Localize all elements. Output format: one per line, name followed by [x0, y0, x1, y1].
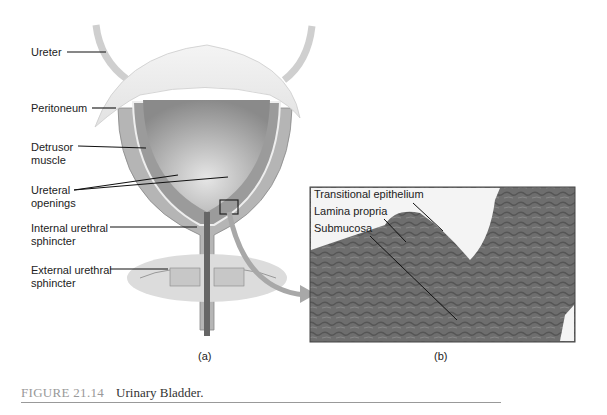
ureter-right: [284, 26, 312, 80]
label-internal-urethral-sphincter: Internal urethral sphincter: [31, 222, 108, 248]
label-lamina-propria: Lamina propria: [314, 205, 387, 217]
label-external-urethral-sphincter: External urethral sphincter: [31, 264, 112, 290]
panel-a-sublabel: (a): [198, 350, 211, 362]
bladder-diagram: [0, 0, 607, 415]
figure-caption: FIGURE 21.14Urinary Bladder.: [21, 385, 203, 401]
label-ureter: Ureter: [31, 46, 62, 59]
label-ureteral-openings: Ureteral openings: [31, 184, 76, 210]
figure-number: FIGURE 21.14: [21, 385, 104, 400]
panel-b-sublabel: (b): [434, 350, 447, 362]
caption-rule: [21, 402, 501, 403]
label-submucosa: Submucosa: [314, 222, 372, 234]
label-transitional-epithelium: Transitional epithelium: [314, 188, 424, 200]
figure-title: Urinary Bladder.: [116, 385, 203, 400]
label-detrusor-muscle: Detrusor muscle: [31, 141, 73, 167]
label-peritoneum: Peritoneum: [31, 102, 87, 115]
